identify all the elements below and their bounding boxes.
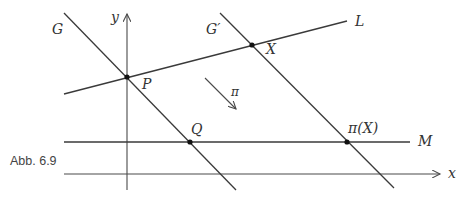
- line-G-label: G: [52, 21, 63, 37]
- point-X-label: X: [265, 41, 277, 57]
- point-pi-X-label: π(X): [347, 120, 378, 136]
- figure-caption: Abb. 6.9: [10, 154, 57, 168]
- point-Q: [187, 139, 192, 144]
- projection-diagram: y x M L G G′ π P X Q π(X) Abb. 6.9: [0, 0, 466, 200]
- line-G-prime-label: G′: [206, 21, 221, 37]
- line-G: [64, 13, 236, 190]
- line-L-label: L: [354, 13, 364, 29]
- projection-label: π: [230, 85, 240, 99]
- point-X: [249, 42, 254, 47]
- point-Q-label: Q: [191, 121, 203, 137]
- point-pi-X: [344, 139, 349, 144]
- point-P-label: P: [141, 76, 152, 92]
- y-axis-label: y: [110, 9, 120, 25]
- x-axis-label: x: [448, 165, 456, 181]
- line-G-prime: [220, 13, 394, 188]
- point-P: [124, 74, 129, 79]
- line-M-label: M: [417, 133, 433, 149]
